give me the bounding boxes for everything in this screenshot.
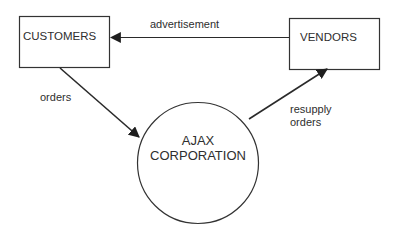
ajax-label-line1: AJAX <box>182 133 215 148</box>
advertisement-label: advertisement <box>150 18 219 30</box>
advertisement-edge: advertisement <box>111 18 289 38</box>
resupply-label-line2: orders <box>290 116 322 128</box>
ajax-label-line2: CORPORATION <box>150 148 246 163</box>
customers-label: CUSTOMERS <box>23 30 97 42</box>
resupply-orders-edge: resupply orders <box>249 69 332 128</box>
ajax-corporation-circle <box>138 103 259 224</box>
customers-box <box>20 17 110 68</box>
vendors-node: VENDORS <box>290 19 380 70</box>
ajax-corporation-node: AJAX CORPORATION <box>138 103 259 224</box>
resupply-label-line1: resupply <box>290 103 332 115</box>
customers-node: CUSTOMERS <box>20 17 110 68</box>
context-diagram: CUSTOMERS VENDORS AJAX CORPORATION adver… <box>0 0 399 232</box>
vendors-box <box>290 19 380 70</box>
vendors-label: VENDORS <box>300 31 357 43</box>
orders-label: orders <box>40 91 72 103</box>
orders-edge: orders <box>40 68 139 137</box>
orders-arrow <box>60 68 139 137</box>
